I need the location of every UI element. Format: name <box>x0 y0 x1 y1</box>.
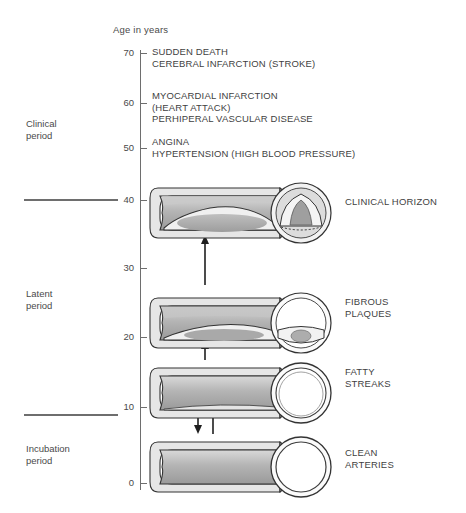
axis-tick-label: 30 <box>108 262 134 273</box>
axis-tick-label: 0 <box>108 477 134 488</box>
event-text-line: PERHIPERAL VASCULAR DISEASE <box>152 113 313 125</box>
axis-tick-mark <box>140 483 147 484</box>
stage-label-line: CLINICAL HORIZON <box>345 196 437 208</box>
axis-tick-label: 70 <box>108 47 134 58</box>
stage-label-line: FATTY <box>345 366 391 378</box>
period-label-line: Clinical <box>26 118 57 130</box>
period-label-line: period <box>26 455 70 467</box>
event-text-line: MYOCARDIAL INFARCTION <box>152 90 313 102</box>
latent-incubation-divider <box>24 414 118 416</box>
event-text-line: SUDDEN DEATH <box>152 46 315 58</box>
atherosclerosis-progression-diagram: Age in years 706050403020100 Clinicalper… <box>0 0 466 513</box>
axis-tick-label: 60 <box>108 97 134 108</box>
artery-cross-section-fibrous-plaques <box>268 290 334 356</box>
axis-tick-mark <box>140 103 147 104</box>
artery-cross-section-clean-arteries <box>268 434 334 500</box>
axis-tick-label: 10 <box>108 401 134 412</box>
stage-label-line: CLEAN <box>345 447 394 459</box>
age-axis-line <box>140 50 141 490</box>
event-text-line: ANGINA <box>152 136 355 148</box>
artery-row-clean-arteries <box>150 432 350 502</box>
event-text-line: CEREBRAL INFARCTION (STROKE) <box>152 58 315 70</box>
latent-period: Latentperiod <box>26 288 52 312</box>
axis-tick-mark <box>140 407 147 408</box>
artery-row-fibrous-plaques <box>150 288 350 358</box>
axis-title: Age in years <box>113 24 168 35</box>
axis-tick-mark <box>140 268 147 269</box>
period-label-line: Latent <box>26 288 52 300</box>
stage-fatty-streaks: FATTYSTREAKS <box>345 366 391 390</box>
stage-label-line: ARTERIES <box>345 459 394 471</box>
axis-tick-mark <box>140 200 147 201</box>
artery-row-fatty-streaks <box>150 358 350 428</box>
axis-tick-mark <box>140 53 147 54</box>
event-sudden-death: SUDDEN DEATHCEREBRAL INFARCTION (STROKE) <box>152 46 315 69</box>
event-angina: ANGINAHYPERTENSION (HIGH BLOOD PRESSURE) <box>152 136 355 159</box>
incubation-period: Incubationperiod <box>26 443 70 467</box>
stage-label-line: STREAKS <box>345 378 391 390</box>
axis-tick-mark <box>140 148 147 149</box>
clinical-period: Clinicalperiod <box>26 118 57 142</box>
period-label-line: Incubation <box>26 443 70 455</box>
event-myocardial-infarction: MYOCARDIAL INFARCTION(HEART ATTACK)PERHI… <box>152 90 313 125</box>
stage-clean-arteries: CLEANARTERIES <box>345 447 394 471</box>
axis-tick-mark <box>140 337 147 338</box>
stage-fibrous-plaques: FIBROUSPLAQUES <box>345 296 391 320</box>
artery-row-clinical-horizon <box>150 178 350 248</box>
stage-label-line: PLAQUES <box>345 308 391 320</box>
event-text-line: HYPERTENSION (HIGH BLOOD PRESSURE) <box>152 148 355 160</box>
artery-cross-section-fatty-streaks <box>268 360 334 426</box>
stage-label-line: FIBROUS <box>345 296 391 308</box>
stage-clinical-horizon: CLINICAL HORIZON <box>345 196 437 208</box>
artery-cross-section-clinical-horizon <box>268 180 334 246</box>
axis-tick-label: 50 <box>108 142 134 153</box>
axis-tick-label: 20 <box>108 331 134 342</box>
clinical-latent-divider <box>24 199 118 201</box>
period-label-line: period <box>26 130 57 142</box>
period-label-line: period <box>26 300 52 312</box>
event-text-line: (HEART ATTACK) <box>152 102 313 114</box>
